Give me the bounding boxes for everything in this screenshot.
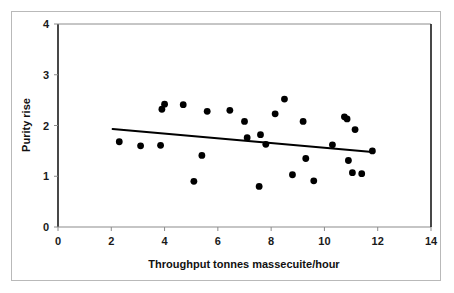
- x-axis-tick-labels: 02468101214: [55, 235, 438, 247]
- data-point: [226, 107, 233, 114]
- data-point: [190, 178, 197, 185]
- data-point: [241, 118, 248, 125]
- x-tick-label-4: 4: [162, 235, 169, 247]
- data-point: [257, 131, 264, 138]
- data-point: [281, 96, 288, 103]
- data-point: [369, 147, 376, 154]
- data-point: [157, 142, 164, 149]
- x-tick-label-8: 8: [268, 235, 274, 247]
- data-point: [349, 169, 356, 176]
- data-point: [289, 171, 296, 178]
- data-point: [352, 126, 359, 133]
- data-point: [161, 101, 168, 108]
- x-tick-label-0: 0: [55, 235, 61, 247]
- data-point: [256, 183, 263, 190]
- data-point: [180, 101, 187, 108]
- scatter-chart: 02468101214 01234 Throughput tonnes mass…: [0, 0, 454, 293]
- x-tick-label-10: 10: [318, 235, 330, 247]
- data-point: [272, 110, 279, 117]
- data-point: [204, 108, 211, 115]
- x-tick-label-12: 12: [372, 235, 384, 247]
- data-point: [116, 138, 123, 145]
- y-tick-label-1: 1: [43, 170, 49, 182]
- data-point: [262, 141, 269, 148]
- data-point: [310, 177, 317, 184]
- data-point: [300, 118, 307, 125]
- data-point: [137, 142, 144, 149]
- x-axis-title: Throughput tonnes massecuite/hour: [148, 258, 340, 270]
- y-axis-title: Purity rise: [20, 98, 32, 152]
- y-tick-label-2: 2: [43, 120, 49, 132]
- data-point: [244, 134, 251, 141]
- x-axis-ticks: [58, 227, 431, 231]
- x-tick-label-2: 2: [108, 235, 114, 247]
- data-point: [344, 116, 351, 123]
- data-point: [329, 141, 336, 148]
- plot-area-background: [58, 24, 431, 227]
- y-axis-tick-labels: 01234: [43, 18, 50, 233]
- data-point: [198, 152, 205, 159]
- data-point: [302, 155, 309, 162]
- y-tick-label-4: 4: [43, 18, 50, 30]
- figure: 02468101214 01234 Throughput tonnes mass…: [0, 0, 454, 293]
- x-tick-label-14: 14: [425, 235, 438, 247]
- y-tick-label-0: 0: [43, 221, 49, 233]
- data-point: [345, 157, 352, 164]
- x-tick-label-6: 6: [215, 235, 221, 247]
- data-point: [358, 170, 365, 177]
- y-tick-label-3: 3: [43, 69, 49, 81]
